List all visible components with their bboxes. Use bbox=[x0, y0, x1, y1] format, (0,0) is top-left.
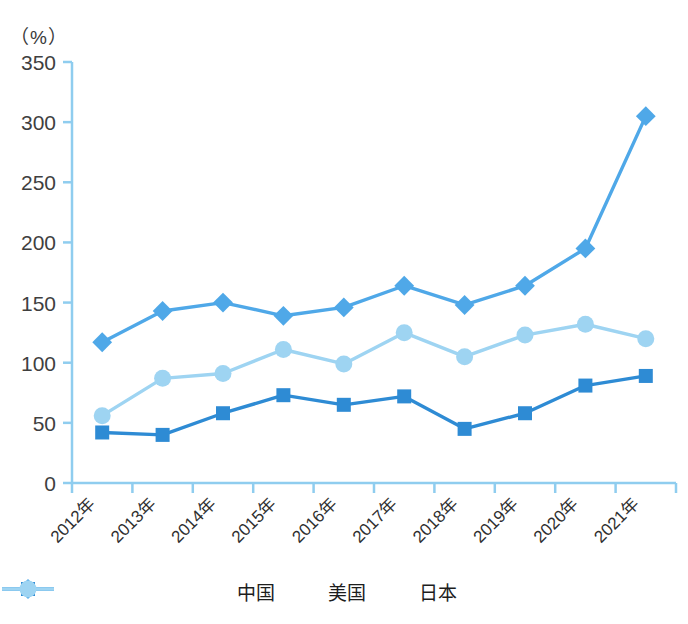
data-point bbox=[276, 388, 290, 402]
x-axis-tick-label: 2018年 bbox=[409, 494, 461, 546]
y-axis-tick-label: 350 bbox=[21, 51, 56, 74]
series-美国 bbox=[92, 106, 655, 352]
data-point bbox=[275, 341, 292, 358]
x-axis-tick-label: 2021年 bbox=[590, 494, 642, 546]
y-axis-tick-label: 150 bbox=[21, 292, 56, 315]
data-point bbox=[455, 295, 475, 315]
data-point bbox=[153, 301, 173, 321]
series-日本 bbox=[94, 316, 655, 424]
data-point bbox=[456, 348, 473, 365]
legend-item-美国[interactable]: 美国 bbox=[323, 578, 366, 605]
data-point bbox=[92, 332, 112, 352]
x-axis-tick-label: 2020年 bbox=[530, 494, 582, 546]
data-point bbox=[515, 276, 535, 296]
data-point bbox=[637, 330, 654, 347]
x-axis-tick-label: 2015年 bbox=[228, 494, 280, 546]
data-point bbox=[213, 293, 233, 313]
data-point bbox=[397, 389, 411, 403]
series-line bbox=[102, 116, 646, 342]
x-axis-tick-label: 2017年 bbox=[349, 494, 401, 546]
line-chart: （%） 0501001502002503003502012年2013年2014年… bbox=[0, 0, 688, 624]
data-point bbox=[639, 369, 653, 383]
data-point bbox=[156, 428, 170, 442]
data-point bbox=[636, 106, 656, 126]
data-point bbox=[94, 407, 111, 424]
y-axis-tick-label: 50 bbox=[33, 412, 56, 435]
x-axis-tick-label: 2016年 bbox=[288, 494, 340, 546]
x-axis-tick-label: 2014年 bbox=[168, 494, 220, 546]
data-point bbox=[396, 324, 413, 341]
y-axis-tick-label: 0 bbox=[44, 472, 56, 495]
data-point bbox=[337, 398, 351, 412]
data-point bbox=[215, 365, 232, 382]
series-line bbox=[102, 376, 646, 435]
data-point bbox=[577, 316, 594, 333]
data-point bbox=[394, 276, 414, 296]
x-axis-tick-label: 2012年 bbox=[47, 494, 99, 546]
data-point bbox=[95, 425, 109, 439]
chart-legend: 中国美国日本 bbox=[0, 578, 688, 605]
series-中国 bbox=[95, 369, 653, 442]
y-axis-tick-label: 100 bbox=[21, 352, 56, 375]
y-axis-tick-label: 250 bbox=[21, 171, 56, 194]
y-axis-tick-label: 200 bbox=[21, 231, 56, 254]
legend-item-日本[interactable]: 日本 bbox=[414, 578, 457, 605]
data-point bbox=[335, 355, 352, 372]
data-point bbox=[154, 370, 171, 387]
legend-label: 日本 bbox=[419, 578, 457, 605]
legend-label: 美国 bbox=[328, 578, 366, 605]
data-point bbox=[216, 406, 230, 420]
legend-label: 中国 bbox=[237, 578, 275, 605]
x-axis-tick-label: 2019年 bbox=[470, 494, 522, 546]
y-axis-tick-label: 300 bbox=[21, 111, 56, 134]
data-point bbox=[458, 422, 472, 436]
data-point bbox=[518, 406, 532, 420]
data-point bbox=[274, 306, 294, 326]
data-point bbox=[517, 327, 534, 344]
x-axis-tick-label: 2013年 bbox=[107, 494, 159, 546]
chart-canvas: 0501001502002503003502012年2013年2014年2015… bbox=[0, 0, 688, 624]
legend-item-中国[interactable]: 中国 bbox=[232, 578, 275, 605]
data-point bbox=[576, 239, 596, 259]
data-point bbox=[334, 297, 354, 317]
data-point bbox=[578, 379, 592, 393]
legend-marker-circle-icon bbox=[0, 578, 56, 600]
